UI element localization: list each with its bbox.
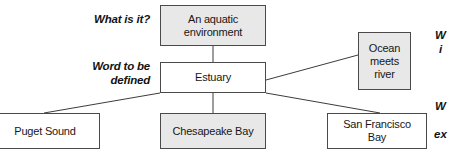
node-an-aquatic-environment[interactable]: An aquatic environment <box>160 5 266 46</box>
node-ocean-meets-river[interactable]: Ocean meets river <box>358 32 411 90</box>
node-estuary-label: Estuary <box>193 71 233 84</box>
node-san-francisco-bay[interactable]: San Francisco Bay <box>327 113 427 149</box>
node-puget-sound-label: Puget Sound <box>12 125 77 138</box>
connector-estuary-puget <box>44 93 160 113</box>
node-ocean-line2: meets <box>370 55 399 67</box>
node-estuary[interactable]: Estuary <box>160 62 266 93</box>
node-ocean-line1: Ocean <box>369 42 400 54</box>
side-label-what-is-it-text: What is it? <box>94 13 150 25</box>
node-san-francisco-bay-label: San Francisco Bay <box>341 118 413 144</box>
connector-estuary-ocean <box>266 55 358 80</box>
node-ocean-line3: river <box>374 68 394 80</box>
node-aquatic-line1: An aquatic <box>188 13 238 25</box>
node-sanfran-line1: San Francisco <box>343 118 411 130</box>
side-label-word-to-be-defined-line1: Word to be <box>92 60 150 72</box>
node-ocean-meets-river-label: Ocean meets river <box>367 42 402 81</box>
node-sanfran-line2: Bay <box>368 131 386 143</box>
side-label-what-is-it: What is it? <box>52 12 150 26</box>
cropped-text-fragment-1: W <box>435 28 451 42</box>
node-chesapeake-bay[interactable]: Chesapeake Bay <box>160 113 266 149</box>
connector-estuary-sanfrancisco <box>266 93 380 113</box>
node-an-aquatic-environment-label: An aquatic environment <box>182 13 244 39</box>
node-aquatic-line2: environment <box>184 26 242 38</box>
side-label-word-to-be-defined-line2: defined <box>111 74 151 86</box>
node-chesapeake-bay-label: Chesapeake Bay <box>171 125 256 138</box>
cropped-text-fragment-2: i <box>439 42 451 56</box>
concept-map-canvas: What is it? Word to be defined An aquati… <box>0 0 451 154</box>
cropped-text-fragment-4: ex <box>434 127 451 141</box>
side-label-word-to-be-defined: Word to be defined <box>42 59 150 87</box>
node-puget-sound[interactable]: Puget Sound <box>0 113 100 149</box>
cropped-text-fragment-3: W <box>435 99 451 113</box>
